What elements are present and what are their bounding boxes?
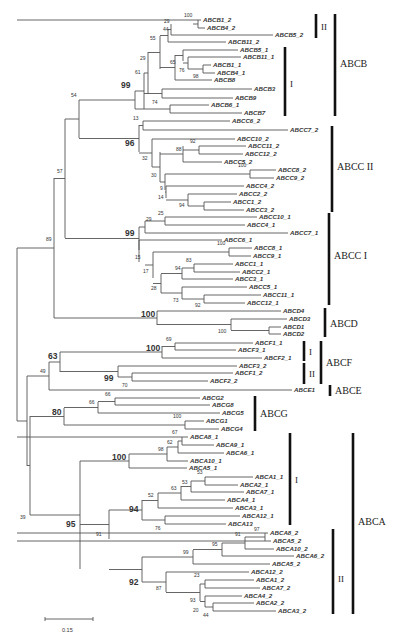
bootstrap-value: 49 [40, 368, 46, 374]
leaf-label: ABCG4 [220, 425, 243, 432]
leaf-label: ABCD4 [282, 307, 305, 314]
leaf-label: ABCF1_2 [234, 369, 263, 376]
leaf-label: ABCG2 [201, 394, 224, 401]
bootstrap-value: 100 [217, 240, 226, 246]
bootstrap-value: 61 [135, 69, 141, 75]
leaf-label: ABCA1_1 [254, 473, 284, 480]
leaf-label: ABCG1 [205, 417, 228, 424]
bootstrap-value: 29 [140, 55, 146, 61]
leaf-label: ABCC6_1 [223, 236, 253, 243]
leaf-label: ABCB7 [243, 109, 266, 116]
bootstrap-value: 29 [164, 18, 170, 24]
bootstrap-value: 100 [141, 309, 155, 319]
leaf-label: ABCA1_2 [255, 576, 285, 583]
leaf-label: ABCB5_1 [239, 46, 269, 53]
leaf-label: ABCE1 [293, 386, 316, 393]
leaf-label: ABCA9_1 [215, 441, 245, 448]
leaf-label: ABCA13 [227, 520, 253, 527]
leaf-label: ABCB4_2 [206, 24, 236, 31]
bootstrap-value: 9 [160, 185, 163, 191]
bootstrap-value: 74 [152, 99, 158, 105]
leaf-label: ABCB1_2 [202, 16, 232, 23]
bootstrap-value: 54 [71, 92, 77, 98]
bootstrap-value: 92 [190, 138, 196, 144]
leaf-label: ABCA5_1 [188, 464, 218, 471]
bootstrap-value: 99 [125, 228, 135, 238]
leaf-label: ABCA7_1 [245, 488, 275, 495]
bootstrap-value: 93 [190, 597, 196, 603]
leaf-label: ABCC7_1 [289, 229, 319, 236]
bootstrap-value: 25 [158, 210, 164, 216]
bootstrap-value: 66 [89, 399, 95, 405]
leaf-label: ABCF3_2 [238, 362, 267, 369]
leaf-label: ABCF2_2 [209, 377, 238, 384]
bootstrap-value: 99 [121, 80, 131, 90]
bootstrap-value: 92 [129, 577, 139, 587]
leaf-label: ABCA10_2 [275, 545, 308, 552]
bootstrap-value: 14 [158, 194, 164, 200]
leaf-label: ABCA4_1 [226, 496, 256, 503]
bootstrap-value: 87 [156, 585, 162, 591]
leaf-label: ABCC7_2 [289, 126, 319, 133]
leaf-label: ABCC4_2 [245, 182, 275, 189]
clade-label: ABCE [335, 385, 362, 396]
clade-label: II [338, 574, 344, 584]
leaf-label: ABCD1 [282, 323, 305, 330]
leaf-label: ABCD3 [288, 315, 311, 322]
bootstrap-value: 66 [105, 391, 111, 397]
clade-label: ABCG [260, 408, 288, 419]
bootstrap-value: 13 [133, 115, 139, 121]
leaf-label: ABCA4_2 [243, 592, 273, 599]
leaf-label: ABCC11_2 [247, 142, 280, 149]
leaf-label: ABCC5_1 [248, 283, 278, 290]
bootstrap-value: 32 [142, 155, 148, 161]
leaf-label: ABCG8 [211, 401, 234, 408]
leaf-label: ABCA5_2 [272, 537, 302, 544]
bootstrap-value: 99 [183, 549, 189, 555]
leaf-label: ABCF3_1 [237, 346, 266, 353]
bootstrap-value: 94 [129, 504, 139, 514]
bootstrap-value: 98 [193, 73, 199, 79]
leaf-label: ABCA2_1 [239, 481, 269, 488]
clade-annotations: ABCBIIIABCC IIABCC IABCDIIIABCFABCEABCGI… [255, 14, 387, 614]
leaf-label: ABCC9_2 [275, 174, 305, 181]
leaf-label: ABCB5_2 [274, 31, 304, 38]
leaf-label: ABCG5 [221, 409, 244, 416]
bootstrap-value: 96 [125, 138, 135, 148]
leaf-label: ABCC4_1 [246, 221, 276, 228]
leaf-label: ABCC10_1 [258, 213, 291, 220]
leaf-label: ABCC1_2 [232, 198, 262, 205]
bootstrap-value: 44 [203, 612, 209, 618]
leaf-label: ABCA2_2 [255, 599, 285, 606]
leaf-label: ABCA12_1 [241, 512, 274, 519]
clade-label: II [309, 369, 315, 379]
bootstrap-value: 100 [238, 162, 247, 168]
leaf-label: ABCB11_2 [227, 38, 260, 45]
bootstrap-value: 94 [175, 265, 181, 271]
leaf-label: ABCC10_2 [236, 135, 269, 142]
leaf-label: ABCA8_1 [189, 433, 219, 440]
leaf-label: ABCB1_1 [212, 61, 242, 68]
leaf-label: ABCC11_1 [262, 291, 295, 298]
clade-label: ABCC II [337, 161, 373, 172]
leaf-label: ABCC3_2 [245, 206, 275, 213]
bootstrap-value: 28 [151, 285, 157, 291]
leaf-label: ABCF2_1 [263, 354, 292, 361]
bootstrap-value: 94 [179, 202, 185, 208]
leaf-label: ABCC8_2 [277, 166, 307, 173]
bootstrap-value: 88 [176, 146, 182, 152]
leaf-label: ABCA7_2 [261, 584, 291, 591]
bootstrap-value: 65 [170, 59, 176, 65]
clade-label: ABCF [326, 357, 353, 368]
bootstrap-value: 20 [193, 607, 199, 613]
bootstrap-value: 70 [122, 382, 128, 388]
bootstrap-value: 44 [163, 26, 169, 32]
bootstrap-value: 53 [197, 469, 203, 475]
bootstrap-value: 63 [48, 351, 58, 361]
leaf-label: ABCA6_2 [295, 552, 325, 559]
leaf-label: ABCC12_2 [244, 150, 277, 157]
leaf-label: ABCC9_1 [252, 252, 282, 259]
bootstrap-value: 67 [172, 429, 178, 435]
leaf-label: ABCB9 [234, 94, 257, 101]
bootstrap-value: 91 [235, 531, 241, 537]
